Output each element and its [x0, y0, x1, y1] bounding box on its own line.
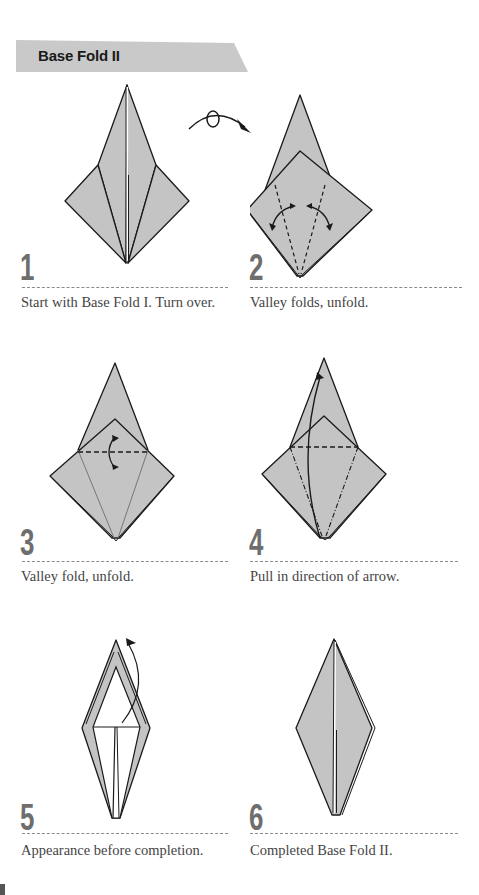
step-number: 6 [249, 800, 263, 836]
dashed-divider [250, 287, 462, 288]
step-5-diagram [60, 600, 210, 820]
step-caption: Valley folds, unfold. [250, 294, 368, 311]
page-title: Base Fold II [38, 47, 120, 64]
step-caption: Completed Base Fold II. [250, 842, 393, 859]
step-caption: Valley fold, unfold. [21, 568, 134, 585]
step-caption: Appearance before completion. [21, 842, 203, 859]
dashed-divider [22, 287, 228, 288]
step-number: 3 [20, 525, 34, 561]
step-number: 1 [20, 250, 34, 286]
page-edge-mark [0, 884, 5, 895]
step-caption: Start with Base Fold I. Turn over. [21, 294, 215, 311]
section-banner: Base Fold II [16, 40, 248, 72]
step-caption: Pull in direction of arrow. [250, 568, 399, 585]
step-2-diagram [250, 90, 400, 280]
step-number: 2 [249, 250, 263, 286]
step-number: 5 [20, 800, 34, 836]
dashed-divider [250, 561, 458, 562]
step-3-diagram [40, 355, 190, 545]
step-6-diagram [290, 630, 400, 820]
dashed-divider [22, 833, 228, 834]
step-number: 4 [249, 525, 263, 561]
dashed-divider [22, 561, 228, 562]
dashed-divider [250, 833, 458, 834]
step-4-diagram [260, 350, 410, 540]
